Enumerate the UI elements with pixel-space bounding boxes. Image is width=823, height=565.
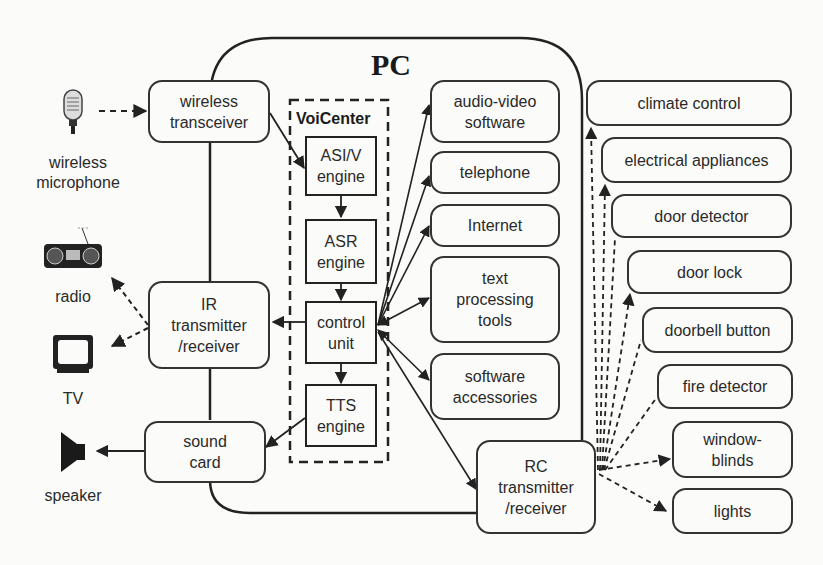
microphone-label: wireless microphone bbox=[28, 153, 128, 193]
asiv-engine-box: ASI/V engine bbox=[305, 136, 377, 196]
control-unit-box: control unit bbox=[305, 301, 377, 364]
window-blinds-box: window- blinds bbox=[672, 421, 793, 478]
audio-video-software-box: audio-video software bbox=[430, 80, 560, 143]
radio-label: radio bbox=[38, 287, 108, 307]
climate-control-box: climate control bbox=[586, 80, 792, 126]
radio-icon bbox=[42, 224, 104, 272]
internet-box: Internet bbox=[430, 204, 560, 247]
software-accessories-box: software accessories bbox=[430, 353, 560, 420]
door-detector-box: door detector bbox=[611, 194, 792, 238]
voicenter-title: VoiCenter bbox=[296, 110, 370, 128]
pc-title: PC bbox=[371, 48, 411, 82]
electrical-appliances-box: electrical appliances bbox=[601, 137, 792, 183]
lights-box: lights bbox=[672, 488, 793, 534]
telephone-box: telephone bbox=[430, 151, 560, 194]
tv-label: TV bbox=[38, 389, 108, 409]
voicenter-architecture-diagram: PC VoiCenter wireless microphone radio T… bbox=[0, 0, 823, 565]
tv-icon bbox=[51, 333, 95, 375]
speaker-icon bbox=[59, 430, 87, 474]
microphone-icon bbox=[60, 88, 88, 138]
rc-transceiver-box: RC transmitter /receiver bbox=[476, 440, 596, 534]
tts-engine-box: TTS engine bbox=[305, 384, 377, 447]
fire-detector-box: fire detector bbox=[657, 364, 793, 409]
text-processing-tools-box: text processing tools bbox=[430, 256, 560, 343]
doorbell-button-box: doorbell button bbox=[642, 307, 793, 353]
door-lock-box: door lock bbox=[627, 250, 792, 294]
speaker-label: speaker bbox=[33, 486, 113, 506]
asr-engine-box: ASR engine bbox=[305, 219, 377, 284]
sound-card-box: sound card bbox=[144, 421, 266, 483]
wireless-transceiver-box: wireless transceiver bbox=[148, 80, 270, 143]
ir-transceiver-box: IR transmitter /receiver bbox=[148, 281, 270, 369]
